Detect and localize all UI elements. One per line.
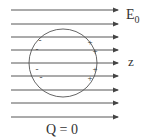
positive-charge: + <box>87 73 92 83</box>
net-charge-label: Q = 0 <box>46 122 78 137</box>
negative-charge: - <box>36 44 39 54</box>
positive-charge: + <box>92 46 97 56</box>
positive-charge: + <box>92 64 97 74</box>
negative-charge: - <box>40 72 43 82</box>
induced-charge-diagram: ----++++ E0 z Q = 0 <box>0 0 151 138</box>
negative-charge: - <box>39 35 42 45</box>
axis-label-z: z <box>128 54 134 69</box>
field-label: E0 <box>126 7 140 25</box>
negative-charge: - <box>36 64 39 74</box>
field-lines <box>11 10 118 117</box>
